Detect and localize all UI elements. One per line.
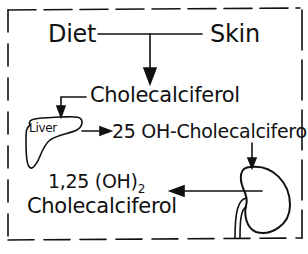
label-125oh2-line2: Cholecalciferol: [27, 194, 177, 218]
kidney-icon: [241, 167, 290, 233]
label-diet: Diet: [48, 20, 96, 48]
arrow-head-right-icon: [100, 127, 111, 135]
label-125oh2-line1: 1,25 (OH)2: [48, 170, 145, 196]
label-25oh-cholecalciferol: 25 OH-Cholecalciferol: [112, 120, 308, 142]
label-125oh: 1,25 (OH): [48, 170, 138, 192]
label-liver: Liver: [29, 121, 57, 135]
arrow-head-down-icon: [57, 106, 65, 117]
arrow-head-down-icon: [144, 68, 156, 84]
label-skin: Skin: [210, 20, 260, 48]
vitamin-d-pathway-diagram: Diet Skin Cholecalciferol Liver 25 OH-Ch…: [0, 0, 308, 254]
label-cholecalciferol: Cholecalciferol: [90, 83, 240, 107]
